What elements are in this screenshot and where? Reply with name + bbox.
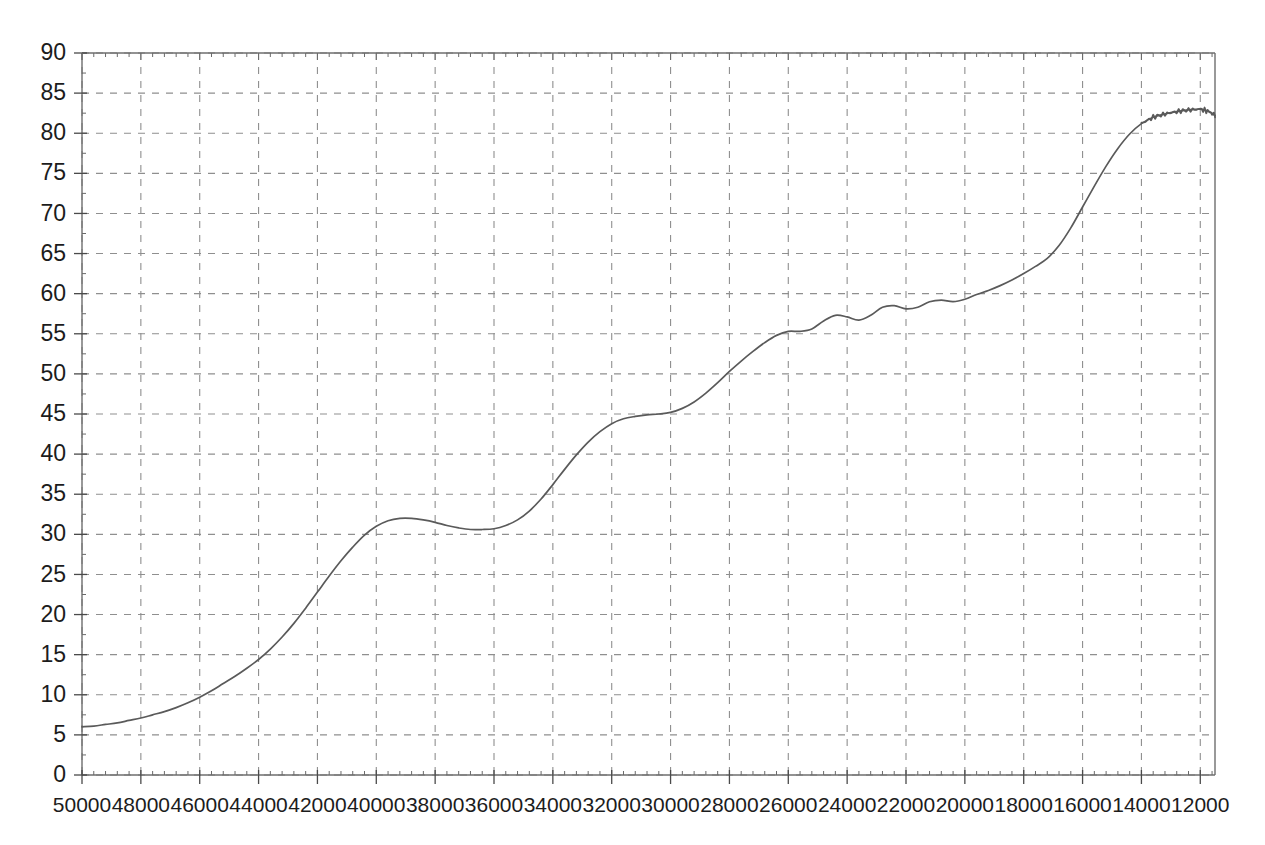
xtick-label-42000: 42000 [288,793,346,816]
chart-container: 051015202530354045505560657075808590 500… [0,0,1265,845]
xtick-label-14000: 14000 [1112,793,1170,816]
xtick-label-30000: 30000 [641,793,699,816]
ytick-label-40: 40 [40,440,66,466]
xtick-label-34000: 34000 [524,793,582,816]
ytick-label-5: 5 [53,721,66,747]
ytick-label-55: 55 [40,320,66,346]
ytick-label-65: 65 [40,240,66,266]
xtick-label-50000: 50000 [53,793,111,816]
xtick-label-12000: 12000 [1171,793,1229,816]
y-axis-tick-labels: 051015202530354045505560657075808590 [40,39,66,787]
x-axis-ticks [82,53,1212,784]
xtick-label-24000: 24000 [818,793,876,816]
xtick-label-22000: 22000 [877,793,935,816]
x-axis-tick-labels: 5000048000460004400042000400003800036000… [53,793,1230,816]
xtick-label-36000: 36000 [465,793,523,816]
y-axis-ticks [74,53,87,775]
spectrum-line-chart: 051015202530354045505560657075808590 500… [0,0,1265,845]
ytick-label-15: 15 [40,641,66,667]
xtick-label-20000: 20000 [936,793,994,816]
xtick-label-40000: 40000 [347,793,405,816]
xtick-label-38000: 38000 [406,793,464,816]
xtick-label-26000: 26000 [759,793,817,816]
data-curve-curve [82,109,1215,727]
ytick-label-45: 45 [40,400,66,426]
ytick-label-90: 90 [40,39,66,65]
ytick-label-25: 25 [40,561,66,587]
data-curve-noise [1141,107,1215,122]
ytick-label-35: 35 [40,480,66,506]
xtick-label-32000: 32000 [583,793,641,816]
xtick-label-28000: 28000 [700,793,758,816]
ytick-label-10: 10 [40,681,66,707]
data-series-group [82,107,1215,726]
ytick-label-0: 0 [53,761,66,787]
ytick-label-30: 30 [40,520,66,546]
ytick-label-80: 80 [40,119,66,145]
ytick-label-60: 60 [40,280,66,306]
ytick-label-70: 70 [40,200,66,226]
ytick-label-85: 85 [40,79,66,105]
xtick-label-46000: 46000 [171,793,229,816]
xtick-label-16000: 16000 [1053,793,1111,816]
xtick-label-44000: 44000 [229,793,287,816]
ytick-label-50: 50 [40,360,66,386]
xtick-label-18000: 18000 [995,793,1053,816]
ytick-label-20: 20 [40,601,66,627]
ytick-label-75: 75 [40,159,66,185]
xtick-label-48000: 48000 [112,793,170,816]
